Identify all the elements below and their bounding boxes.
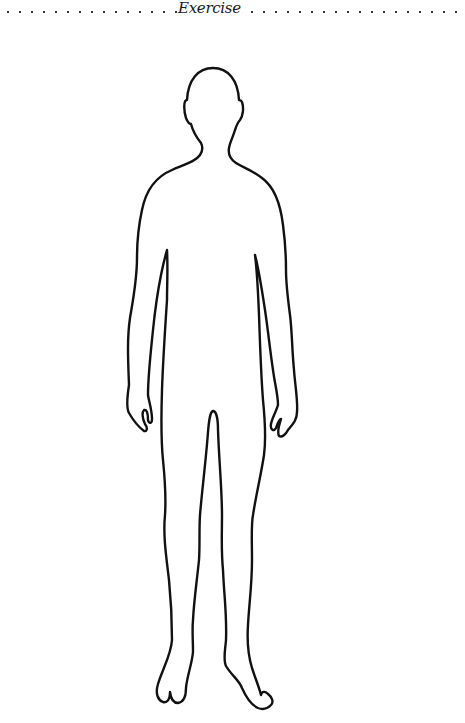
body-outline-figure (0, 0, 465, 723)
body-silhouette (127, 68, 297, 709)
